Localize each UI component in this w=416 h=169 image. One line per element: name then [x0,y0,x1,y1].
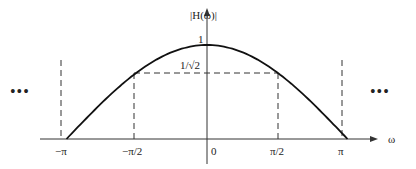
y-tick-inv-sqrt2: 1/√2 [180,60,200,71]
y-axis-label: |H(ω)| [190,10,217,21]
x-axis-arrow-icon [370,136,378,142]
ellipsis-right: ••• [370,84,390,100]
x-tick-neg-pi-2: −π/2 [122,146,142,157]
ellipsis-left: ••• [10,84,30,100]
x-tick-pi: π [338,146,344,157]
x-axis-label: ω [388,134,395,145]
y-tick-1: 1 [198,34,204,45]
frequency-response-plot [0,0,416,169]
x-tick-pi-2: π/2 [270,146,284,157]
x-tick-0: 0 [211,146,217,157]
x-tick-neg-pi: −π [55,146,67,157]
